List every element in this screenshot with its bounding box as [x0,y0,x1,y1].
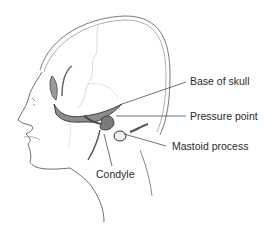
leader-mastoid-process [124,134,166,146]
eye-socket [50,76,57,100]
label-condyle: Condyle [96,168,135,180]
face-profile [18,72,104,222]
label-pressure-point: Pressure point [190,110,258,122]
label-mastoid-process: Mastoid process [172,140,248,152]
mastoid-shape [114,131,126,141]
condyle-shape [100,116,114,130]
cranial-suture [78,26,98,108]
leader-base-of-skull [122,82,186,104]
leader-condyle [104,134,112,166]
label-base-of-skull: Base of skull [190,75,250,87]
